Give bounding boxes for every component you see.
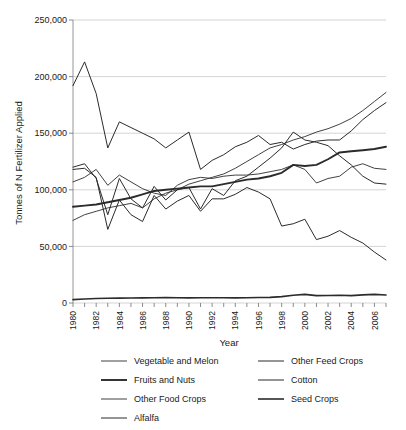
x-axis-tick-label: 2000 [300,311,310,330]
x-axis-tick-label: 1994 [230,311,240,330]
legend-label-seed-crops: Seed Crops [291,394,339,404]
legend-label-fruits-and-nuts: Fruits and Nuts [134,375,196,385]
x-axis-tick-label: 1990 [184,311,194,330]
x-axis-tick-label: 1982 [91,311,101,330]
x-axis-tick-label: 1980 [68,311,78,330]
legend-label-cotton: Cotton [291,375,318,385]
chart-legend: Vegetable and MelonFruits and NutsOther … [101,356,364,423]
line-chart: 050,000100,000150,000200,000250,000 1980… [0,0,406,430]
y-axis-title: Tonnes of N Fertilizer Applied [13,101,24,225]
y-axis-tick-label: 150,000 [34,128,67,138]
y-axis-tick-label: 0 [62,298,67,308]
y-axis-tick-label: 100,000 [34,185,67,195]
x-axis-tick-label: 1988 [161,311,171,330]
data-series-group [73,62,386,300]
x-axis-tick-label: 2002 [323,311,333,330]
x-axis-ticks: 1980198219841986198819901992199419961998… [68,303,386,330]
y-axis-tick-label: 250,000 [34,15,67,25]
x-axis-tick-label: 1984 [115,311,125,330]
y-axis-ticks: 050,000100,000150,000200,000250,000 [34,15,73,308]
x-axis-title: Year [219,337,238,348]
x-axis-tick-label: 2004 [346,311,356,330]
x-axis-tick-label: 2006 [370,311,380,330]
legend-label-other-food-crops: Other Food Crops [134,394,207,404]
y-axis-tick-label: 50,000 [39,242,67,252]
chart-figure: 050,000100,000150,000200,000250,000 1980… [0,0,406,430]
x-axis-tick-label: 1986 [138,311,148,330]
x-axis-tick-label: 1992 [207,311,217,330]
x-axis-tick-label: 1996 [254,311,264,330]
gridlines [73,20,386,303]
y-axis-tick-label: 200,000 [34,72,67,82]
legend-label-vegetable-and-melon: Vegetable and Melon [134,356,219,366]
legend-label-other-feed-crops: Other Feed Crops [291,356,364,366]
x-axis-tick-label: 1998 [277,311,287,330]
series-line-other-feed-crops [73,132,386,215]
legend-label-alfalfa: Alfalfa [134,413,159,423]
series-line-seed-crops [73,294,386,299]
